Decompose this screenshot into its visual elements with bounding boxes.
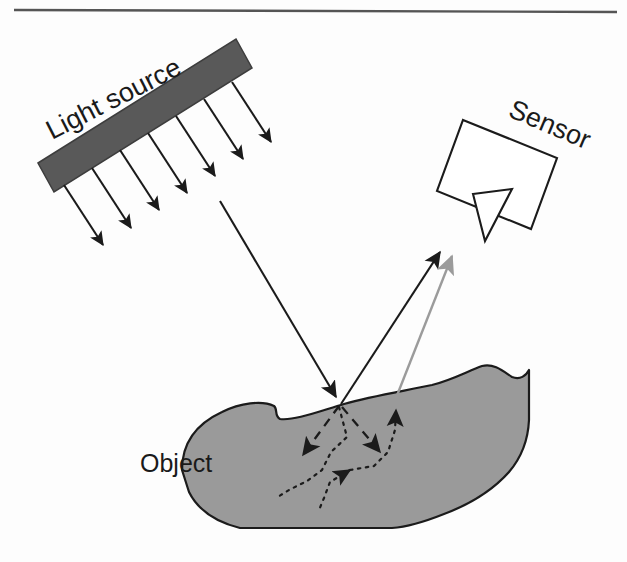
illumination-ray-6: [204, 99, 243, 159]
diagram-canvas: Light source Sensor Object: [0, 0, 627, 562]
incident-ray: [220, 201, 336, 397]
illumination-ray-3: [120, 150, 159, 210]
object-label: Object: [140, 449, 212, 477]
light-source-group: Light source: [38, 39, 271, 245]
illumination-ray-7: [232, 82, 271, 142]
illumination-ray-1: [64, 185, 103, 245]
illumination-ray-2: [92, 168, 131, 228]
diagram-svg: Light source Sensor Object: [0, 0, 627, 562]
illumination-ray-5: [176, 116, 215, 176]
specular-reflected-ray: [341, 252, 440, 404]
sensor-group: Sensor: [437, 94, 595, 241]
object-group: Object: [140, 365, 529, 528]
object-silhouette: [182, 365, 529, 528]
illumination-ray-4: [148, 133, 187, 193]
horizontal-rule: [14, 10, 617, 12]
